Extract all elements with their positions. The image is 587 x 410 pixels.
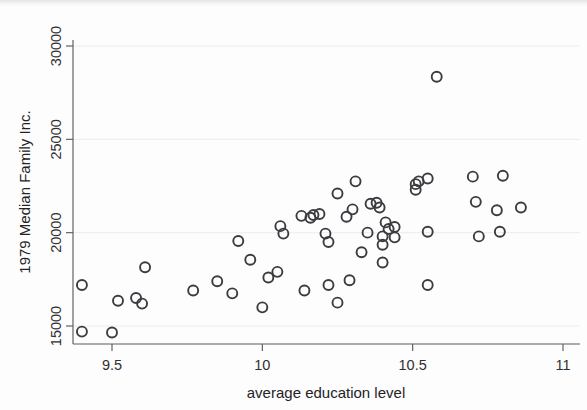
data-point bbox=[299, 286, 309, 296]
data-point bbox=[333, 188, 343, 198]
plot-canvas: 15000200002500030000 9.51010.511 average… bbox=[0, 0, 587, 410]
data-point bbox=[272, 267, 282, 277]
y-axis-ticks bbox=[66, 46, 73, 326]
data-point bbox=[333, 298, 343, 308]
y-tick-label: 30000 bbox=[48, 26, 64, 66]
data-point bbox=[345, 275, 355, 285]
data-points bbox=[77, 72, 526, 338]
data-point bbox=[492, 205, 502, 215]
data-point bbox=[348, 204, 358, 214]
data-point bbox=[423, 227, 433, 237]
x-axis-title: average education level bbox=[247, 384, 405, 401]
y-tick-label: 20000 bbox=[48, 213, 64, 253]
y-tick-label: 25000 bbox=[48, 119, 64, 159]
data-point bbox=[323, 280, 333, 290]
data-point bbox=[471, 197, 481, 207]
data-point bbox=[113, 296, 123, 306]
data-point bbox=[498, 171, 508, 181]
data-point bbox=[257, 302, 267, 312]
data-point bbox=[468, 172, 478, 182]
data-point bbox=[227, 288, 237, 298]
data-point bbox=[140, 262, 150, 272]
x-tick-label: 11 bbox=[555, 357, 570, 373]
x-tick-label: 10 bbox=[254, 357, 270, 373]
y-axis-tick-labels: 15000200002500030000 bbox=[48, 26, 64, 346]
gridlines bbox=[73, 46, 580, 326]
data-point bbox=[233, 236, 243, 246]
data-point bbox=[245, 255, 255, 265]
data-point bbox=[390, 232, 400, 242]
data-point bbox=[390, 222, 400, 232]
data-point bbox=[77, 327, 87, 337]
scatter-plot-figure: 15000200002500030000 9.51010.511 average… bbox=[0, 0, 587, 410]
data-point bbox=[423, 280, 433, 290]
data-point bbox=[432, 72, 442, 82]
x-tick-label: 10.5 bbox=[399, 357, 427, 373]
data-point bbox=[314, 209, 324, 219]
data-point bbox=[77, 280, 87, 290]
data-point bbox=[131, 293, 141, 303]
y-tick-label: 15000 bbox=[48, 306, 64, 346]
y-axis-title: 1979 Median Family Inc. bbox=[16, 110, 33, 273]
x-tick-label: 9.5 bbox=[102, 357, 122, 373]
data-point bbox=[212, 276, 222, 286]
data-point bbox=[423, 174, 433, 184]
x-axis-tick-labels: 9.51010.511 bbox=[102, 357, 571, 373]
data-point bbox=[516, 202, 526, 212]
data-point bbox=[357, 247, 367, 257]
data-point bbox=[366, 199, 376, 209]
data-point bbox=[351, 176, 361, 186]
data-point bbox=[107, 328, 117, 338]
data-point bbox=[137, 299, 147, 309]
x-axis-ticks bbox=[112, 344, 563, 351]
data-point bbox=[378, 258, 388, 268]
data-point bbox=[495, 227, 505, 237]
data-point bbox=[188, 286, 198, 296]
